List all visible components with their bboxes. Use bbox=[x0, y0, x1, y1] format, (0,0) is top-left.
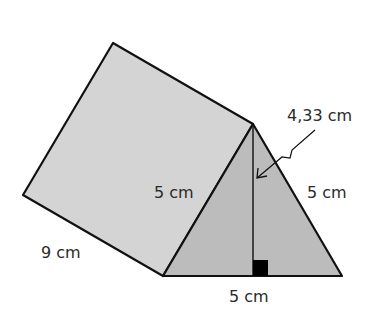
prism-length-label: 9 cm bbox=[41, 243, 81, 262]
height-label: 4,33 cm bbox=[287, 106, 352, 125]
right-angle-marker bbox=[253, 260, 268, 276]
triangle-left-side-label: 5 cm bbox=[154, 183, 194, 202]
triangular-prism-diagram: 4,33 cm 5 cm 5 cm 5 cm 9 cm bbox=[0, 0, 383, 327]
triangle-base-label: 5 cm bbox=[229, 287, 269, 306]
triangle-right-side-label: 5 cm bbox=[307, 183, 347, 202]
